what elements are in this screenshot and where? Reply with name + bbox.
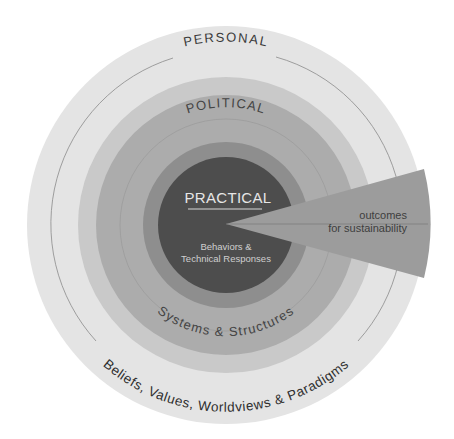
sustainability-spheres-diagram: PERSONAL POLITICAL Systems & Structures … [0, 0, 454, 439]
behaviors-label-line1: Behaviors & [200, 241, 252, 252]
behaviors-label-line2: Technical Responses [181, 253, 271, 264]
outcomes-label-line1: outcomes [359, 209, 407, 221]
practical-label: PRACTICAL [185, 189, 272, 206]
outcomes-label-line2: for sustainability [328, 222, 407, 234]
